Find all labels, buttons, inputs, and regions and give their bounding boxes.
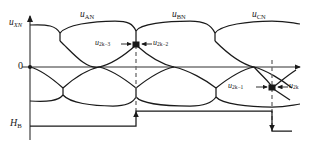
y-axis-label-sub: XN (14, 21, 22, 28)
arc-a0 (30, 67, 63, 88)
marker-label-2k-1: u2k−1 (228, 82, 243, 91)
phase-label-cn: uCN (252, 10, 266, 20)
y-axis-label: uXN (9, 18, 22, 28)
waveform-canvas (0, 0, 310, 142)
axis-group (22, 16, 300, 140)
phase-label-an: uAN (80, 10, 94, 20)
arc-c1 (136, 45, 174, 67)
phase-label-bn: uBN (172, 10, 186, 20)
arc-e0 (174, 67, 216, 88)
phase-cn-sub: CN (257, 13, 266, 20)
origin-label: 0 (18, 61, 23, 71)
env-top-seg-3 (215, 21, 300, 33)
env-top-seg-2 (136, 21, 215, 33)
square-wave-path (30, 111, 292, 131)
marker-2k-sub: 2k (293, 84, 298, 90)
env-bot-seg-0 (30, 95, 63, 101)
waveform-figure: uXN 0 uAN uBN uCN u2k−3 u2k−2 u2k−1 u2k … (0, 0, 310, 142)
square-wave-rise-arrow (133, 111, 139, 117)
dashed-lines (136, 45, 272, 131)
phase-an-sub: AN (85, 13, 94, 20)
inner-curves (30, 41, 296, 100)
phase-bn-sub: BN (177, 13, 186, 20)
marker-2k-1-sub: 2k−1 (232, 84, 243, 90)
env-top-seg-0 (30, 25, 60, 33)
arc-c0 (99, 45, 136, 67)
marker-dot-upper (133, 42, 140, 48)
hb-label-sub: B (17, 122, 22, 129)
arc-b0 (60, 41, 99, 67)
arc-d1 (136, 67, 174, 88)
lower-envelope (30, 88, 300, 107)
arc-a1 (63, 67, 99, 88)
marker-points (133, 42, 276, 91)
env-bot-seg-2 (136, 97, 216, 106)
marker-label-2k-3: u2k−3 (95, 39, 110, 48)
marker-label-2k-2: u2k−2 (153, 39, 168, 48)
square-wave (30, 111, 292, 131)
marker-2k-2-sub: 2k−2 (157, 41, 168, 47)
arc-f0 (215, 41, 254, 67)
marker-2k-3-sub: 2k−3 (99, 41, 110, 47)
marker-dot-lower (269, 85, 276, 91)
hb-label: HB (10, 118, 22, 129)
marker-label-2k: u2k (289, 82, 298, 91)
arc-d0 (99, 67, 136, 88)
env-top-seg-1 (60, 21, 136, 33)
square-wave-fall-arrow (269, 125, 275, 131)
env-bot-seg-1 (63, 95, 136, 106)
